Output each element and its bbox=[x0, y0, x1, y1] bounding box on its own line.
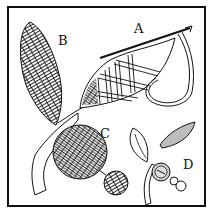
label-a: A bbox=[133, 21, 144, 36]
label-c: C bbox=[100, 126, 110, 141]
circle-c bbox=[53, 125, 128, 195]
leaf-b bbox=[20, 22, 61, 125]
label-b: B bbox=[58, 33, 68, 48]
illustration: B A C bbox=[0, 0, 213, 217]
stitch-diagram: B A C bbox=[0, 0, 213, 217]
label-d: D bbox=[183, 157, 193, 172]
